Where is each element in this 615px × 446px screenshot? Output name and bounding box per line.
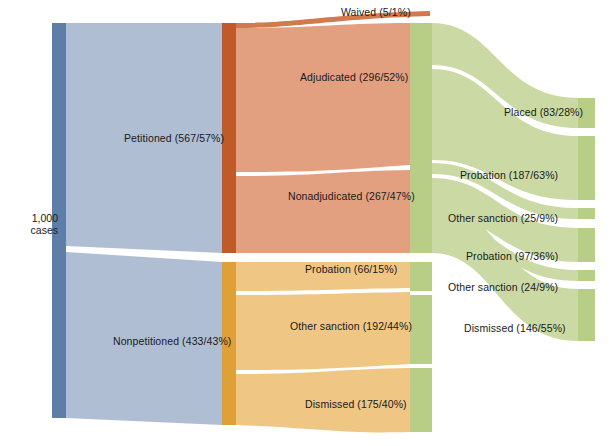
label-nonpetitioned: Nonpetitioned (433/43%) (113, 335, 231, 347)
source-total-unit: cases (8, 224, 58, 236)
node-adj-probation (578, 136, 595, 200)
label-adjudicated: Adjudicated (296/52%) (300, 71, 408, 83)
label-nonadj-probation: Probation (97/36%) (466, 250, 558, 262)
source-total-label: 1,000 cases (8, 212, 58, 236)
node-adjudicated-outcomes (410, 23, 432, 253)
node-nonpetition-probation (410, 262, 432, 291)
source-total-value: 1,000 (8, 212, 58, 224)
label-nonpetition-dismissed: Dismissed (175/40%) (305, 398, 407, 410)
flow-petitioned-to-nonadjudicated (236, 170, 410, 253)
label-waived: Waived (5/1%) (341, 6, 411, 18)
sankey-diagram: 1,000 cases Waived (5/1%) Petitioned (56… (0, 0, 615, 446)
node-nonpetition-other (410, 295, 432, 364)
node-nonadj-dismissed (578, 289, 595, 341)
label-nonpetition-other-sanction: Other sanction (192/44%) (290, 320, 412, 332)
node-nonadj-probation (578, 228, 595, 262)
label-nonadjudicated: Nonadjudicated (267/47%) (288, 190, 415, 202)
node-adj-other-sanction (578, 208, 595, 219)
node-nonpetition-dismissed (410, 368, 432, 432)
label-nonadj-dismissed: Dismissed (146/55%) (464, 322, 566, 334)
label-adj-probation: Probation (187/63%) (460, 169, 558, 181)
label-placed: Placed (83/28%) (504, 106, 583, 118)
label-petitioned: Petitioned (567/57%) (124, 132, 224, 144)
label-nonpetition-probation: Probation (66/15%) (305, 263, 397, 275)
node-petitioned (222, 23, 236, 253)
label-nonadj-other-sanction: Other sanction (24/9%) (448, 281, 558, 293)
flow-petitioned-to-adjudicated (236, 23, 410, 172)
label-adj-other-sanction: Other sanction (25/9%) (448, 212, 558, 224)
node-nonadj-other-sanction (578, 270, 595, 281)
